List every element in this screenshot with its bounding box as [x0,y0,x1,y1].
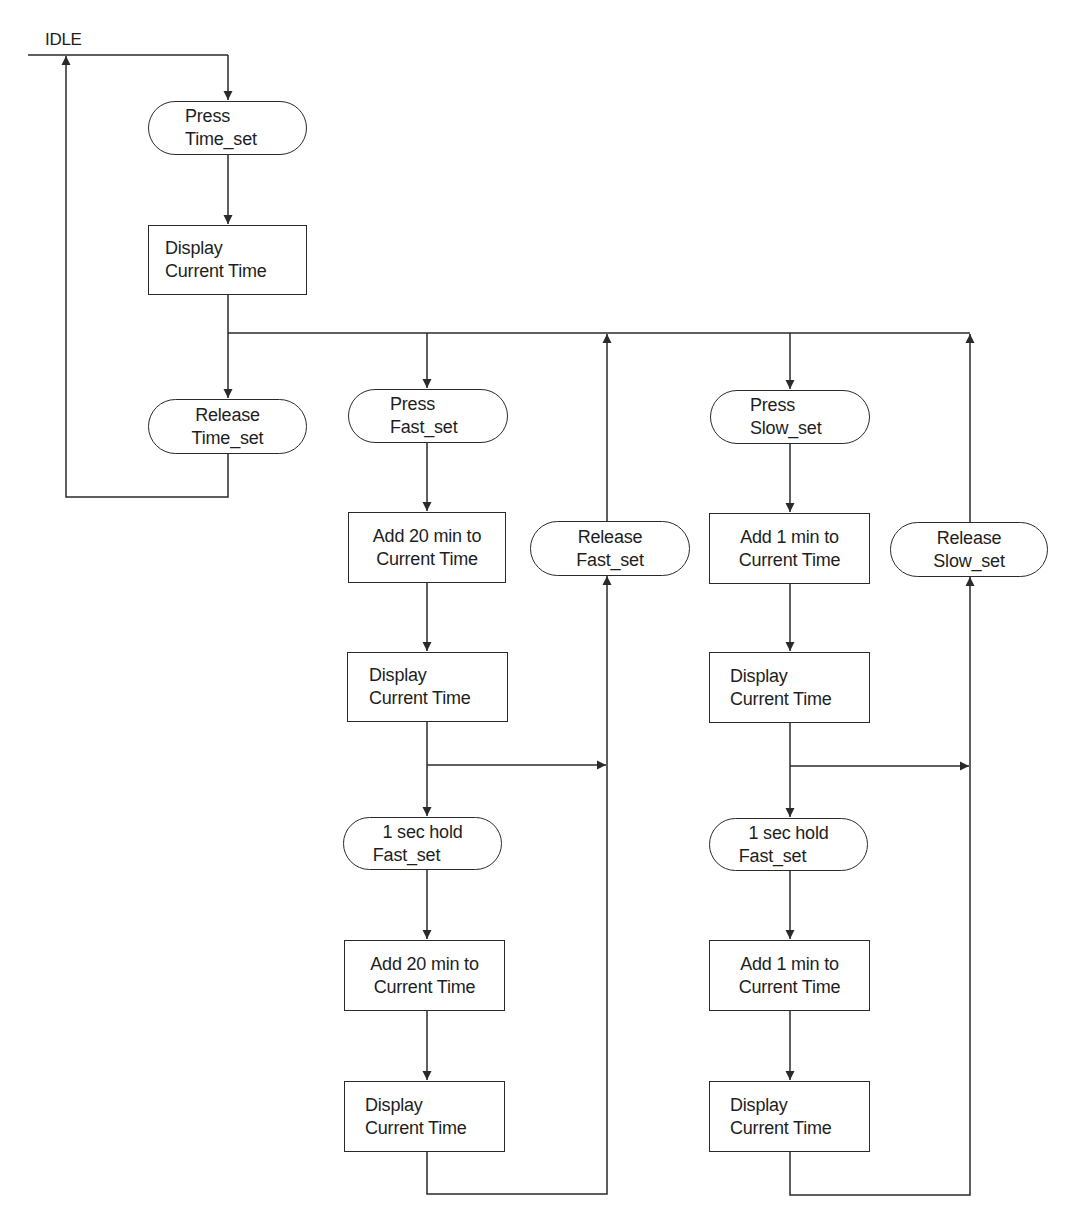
node-text: Current Time [374,976,476,999]
node-release-slow-set: Release Slow_set [890,522,1048,577]
node-text: Current Time [365,1117,467,1140]
node-release-fast-set: Release Fast_set [530,521,690,576]
node-text: Current Time [739,549,841,572]
connector-lines [0,0,1083,1224]
node-add-20-min-2: Add 20 min to Current Time [344,940,505,1011]
node-press-time-set: Press Time_set [148,101,307,155]
node-text: Current Time [369,687,471,710]
node-text: Add 1 min to [740,526,839,549]
node-press-fast-set: Press Fast_set [348,389,508,443]
node-text: Time_set [185,128,257,151]
node-text: Release [578,526,643,549]
node-add-20-min: Add 20 min to Current Time [348,512,506,583]
node-hold-fast-set: 1 sec hold Fast_set [343,817,502,870]
node-text: Display [165,237,223,260]
node-text: Release [937,527,1002,550]
node-text: Time_set [192,427,264,450]
node-text: 1 sec hold [748,822,828,845]
node-text: Current Time [730,1117,832,1140]
node-text: Current Time [165,260,267,283]
node-text: Slow_set [933,550,1004,573]
node-display-current-time-slow-2: Display Current Time [709,1081,870,1152]
node-display-current-time: Display Current Time [148,225,307,295]
node-text: Current Time [730,688,832,711]
node-text: Release [195,404,260,427]
node-display-current-time-fast-1: Display Current Time [347,652,508,722]
node-text: Press [750,394,795,417]
node-text: Add 20 min to [373,525,481,548]
node-text: Fast_set [390,416,457,439]
node-display-current-time-slow-1: Display Current Time [709,652,870,723]
node-add-1-min-2: Add 1 min to Current Time [709,940,870,1011]
node-text: Press [185,105,230,128]
node-text: Fast_set [576,549,643,572]
node-text: Fast_set [373,844,440,867]
node-text: Current Time [739,976,841,999]
node-text: Current Time [376,548,478,571]
node-text: Display [369,664,427,687]
node-text: Slow_set [750,417,821,440]
node-text: Display [365,1094,423,1117]
node-display-current-time-fast-2: Display Current Time [344,1081,505,1152]
node-text: Display [730,665,788,688]
node-release-time-set: Release Time_set [148,399,307,454]
node-text: 1 sec hold [382,821,462,844]
node-text: Press [390,393,435,416]
node-text: Add 1 min to [740,953,839,976]
node-press-slow-set: Press Slow_set [710,390,870,444]
idle-label: IDLE [45,30,82,50]
node-text: Fast_set [739,845,806,868]
node-hold-slow-column: 1 sec hold Fast_set [709,818,868,871]
node-text: Add 20 min to [370,953,478,976]
flowchart-diagram: IDLE Press Time_set Display Current Time… [0,0,1083,1224]
node-add-1-min: Add 1 min to Current Time [709,513,870,584]
node-text: Display [730,1094,788,1117]
